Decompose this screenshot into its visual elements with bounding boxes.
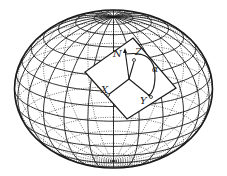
label-azimuth: α (152, 64, 158, 74)
y-marker (150, 96, 153, 99)
ellipsoid-diagram: N Z α X Y (0, 0, 227, 176)
label-north: N (112, 48, 123, 59)
zenith-marker (133, 59, 136, 62)
parallel-line (44, 29, 114, 61)
label-x: X (100, 84, 109, 95)
label-zenith: Z (134, 46, 143, 57)
